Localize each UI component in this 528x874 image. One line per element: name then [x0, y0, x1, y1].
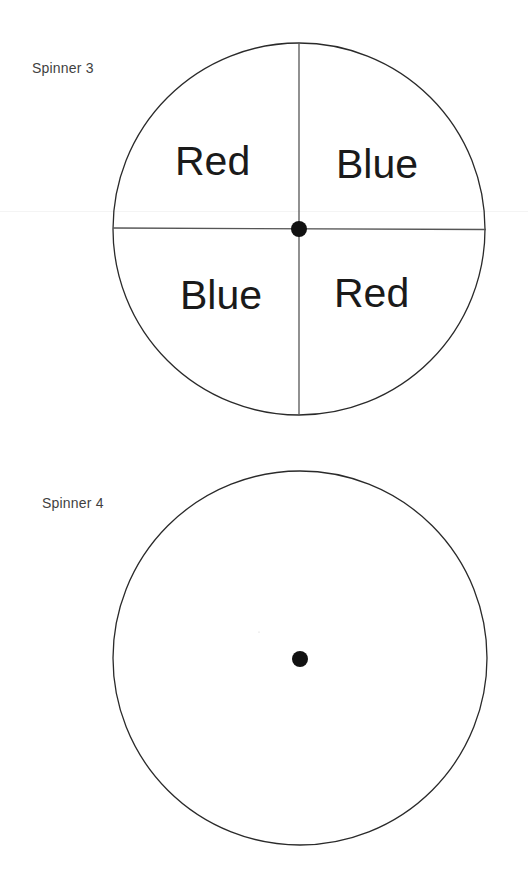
- spinner-4-center-dot-icon: [292, 651, 308, 667]
- spinner-3: Red Blue Blue Red: [113, 43, 486, 415]
- spinner-4: [113, 471, 487, 845]
- spinner-4-title: Spinner 4: [42, 496, 104, 510]
- spinner-3-center-dot-icon: [291, 221, 307, 237]
- speck-artifact: [258, 631, 259, 632]
- sector-label-top-left: Red: [175, 138, 250, 184]
- spinners-drawing: Red Blue Blue Red: [0, 0, 528, 874]
- sector-label-bottom-right: Red: [334, 270, 409, 316]
- sector-label-bottom-left: Blue: [180, 272, 262, 318]
- sector-label-top-right: Blue: [336, 141, 418, 187]
- worksheet-page: Spinner 3 Red Blue Blue Red Spinner 4: [0, 0, 528, 874]
